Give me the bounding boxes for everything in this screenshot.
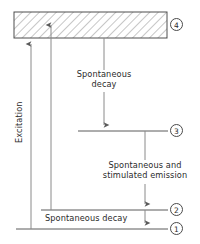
level-badge-2: 2 — [170, 203, 183, 216]
pump-band — [14, 12, 167, 38]
pump-band-rect — [14, 12, 167, 38]
level-badge-4: 4 — [170, 18, 183, 31]
spontaneous-decay-lower-label: Spontaneous decay — [45, 214, 127, 224]
spontaneous-decay-upper-label-line2: decay — [91, 80, 116, 90]
level-badge-3: 3 — [170, 124, 183, 137]
excitation-label: Excitation — [15, 101, 25, 143]
energy-level-diagram: 4 3 2 1 Excitation Spontaneous decay Spo… — [0, 0, 200, 244]
emission-label-line2: stimulated emission — [103, 171, 187, 181]
level-badge-1: 1 — [170, 222, 183, 235]
